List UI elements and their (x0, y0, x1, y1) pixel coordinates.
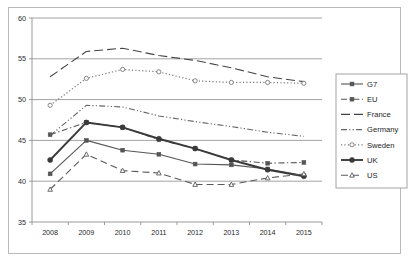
legend-label-g7[interactable]: G7 (367, 80, 377, 89)
legend-label-france[interactable]: France (367, 110, 391, 119)
legend-label-eu[interactable]: EU (367, 95, 378, 104)
axis-ticks (29, 18, 322, 225)
data-point-marker (156, 136, 161, 141)
x-tick-label: 2015 (296, 228, 312, 237)
chart-svg: 605550454035 200820092010201120122013201… (0, 0, 411, 264)
data-point-marker (84, 76, 88, 80)
y-axis-tick-labels: 605550454035 (18, 14, 26, 227)
data-point-marker (229, 80, 233, 84)
data-point-marker (229, 163, 233, 167)
axis-lines (32, 18, 322, 222)
data-point-marker (157, 152, 161, 156)
series-uk (48, 120, 307, 179)
y-tick-label: 35 (18, 218, 26, 227)
data-point-marker (229, 157, 234, 162)
data-point-marker (84, 139, 88, 143)
y-tick-label: 50 (18, 95, 26, 104)
data-point-marker (48, 172, 52, 176)
data-point-marker (302, 171, 307, 175)
x-tick-label: 2008 (42, 228, 58, 237)
data-point-marker (229, 182, 234, 186)
legend-label-germany[interactable]: Germany (367, 125, 398, 134)
data-point-marker (302, 161, 306, 165)
data-point-marker (265, 167, 270, 172)
series-sweden (48, 67, 306, 107)
legend-label-sweden[interactable]: Sweden (367, 141, 394, 150)
chart-legend: G7EUFranceGermanySwedenUKUS (336, 74, 407, 188)
data-point-marker (193, 162, 197, 166)
x-tick-label: 2014 (260, 228, 276, 237)
line-chart: 605550454035 200820092010201120122013201… (0, 0, 411, 264)
data-point-marker (157, 70, 161, 74)
data-point-marker (266, 161, 270, 165)
y-tick-label: 40 (18, 177, 26, 186)
data-point-marker (121, 148, 125, 152)
x-tick-label: 2012 (187, 228, 203, 237)
data-point-marker (120, 125, 125, 130)
data-point-marker (84, 152, 89, 156)
x-tick-label: 2009 (78, 228, 94, 237)
data-point-marker (48, 103, 52, 107)
data-point-marker (302, 81, 306, 85)
x-tick-label: 2010 (115, 228, 131, 237)
y-tick-label: 55 (18, 54, 26, 63)
data-point-marker (193, 146, 198, 151)
data-point-marker (350, 143, 354, 147)
data-point-marker (120, 168, 125, 172)
data-point-marker (84, 120, 89, 125)
data-point-marker (266, 80, 270, 84)
x-tick-label: 2013 (223, 228, 239, 237)
data-point-marker (350, 158, 355, 163)
data-point-marker (265, 176, 270, 180)
data-point-marker (350, 82, 354, 86)
data-point-marker (193, 79, 197, 83)
data-point-marker (350, 97, 354, 101)
x-tick-label: 2011 (151, 228, 166, 237)
gridlines (32, 18, 322, 181)
data-point-marker (193, 182, 198, 186)
y-tick-label: 60 (18, 14, 26, 23)
data-point-marker (48, 157, 53, 162)
series-layer (48, 48, 307, 191)
x-axis-tick-labels: 20082009201020112012201320142015 (42, 228, 312, 237)
data-point-marker (157, 171, 162, 175)
y-tick-label: 45 (18, 136, 26, 145)
legend-label-uk[interactable]: UK (367, 156, 378, 165)
data-point-marker (121, 67, 125, 71)
legend-label-us[interactable]: US (367, 171, 378, 180)
